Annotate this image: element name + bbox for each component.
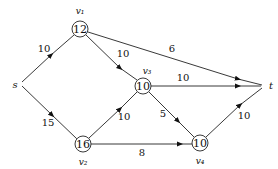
node-v1: v₁ 12: [72, 6, 88, 37]
edge-v4-t: [206, 88, 262, 137]
edge-v1-t: [88, 32, 262, 85]
edge-label-v2-v4: 8: [139, 147, 145, 158]
node-v3: v₃ 10: [135, 66, 152, 94]
node-v4-label: v₄: [196, 156, 205, 166]
node-v4: 10 v₄: [192, 135, 208, 166]
node-v3-label: v₃: [143, 66, 152, 76]
edge-s-v2: [22, 86, 77, 139]
node-v1-value: 12: [73, 23, 87, 36]
edge-label-s-v1: 10: [38, 43, 51, 54]
node-v2-label: v₂: [79, 157, 88, 167]
node-v4-value: 10: [193, 137, 207, 150]
node-v2-value: 16: [76, 138, 90, 151]
edge-v3-v4: [149, 92, 194, 137]
node-v2: 16 v₂: [75, 136, 91, 167]
edge-label-v3-v4: 5: [160, 108, 166, 119]
edge-label-v1-t: 6: [169, 43, 175, 54]
edge-label-v4-t: 10: [238, 110, 251, 121]
node-v1-label: v₁: [76, 6, 85, 16]
edge-label-v2-v3: 10: [118, 111, 131, 122]
flow-network-diagram: 10 15 10 6 10 5 10 8 10 s t v₁ 12 16 v₂ …: [0, 0, 278, 169]
node-v3-value: 10: [136, 80, 150, 93]
edge-label-v3-t: 10: [177, 72, 190, 83]
node-s-label: s: [12, 79, 17, 90]
edge-label-s-v2: 15: [42, 117, 55, 128]
node-t-label: t: [269, 80, 274, 91]
edge-label-v1-v3: 10: [117, 48, 130, 59]
